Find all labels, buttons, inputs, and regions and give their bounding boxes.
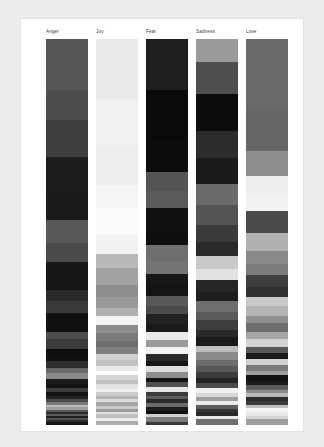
color-band: [96, 325, 138, 332]
color-band: [196, 205, 238, 224]
column-label-love: Love: [246, 29, 288, 39]
color-band: [46, 90, 88, 120]
column-fear[interactable]: Fear: [146, 29, 188, 425]
color-band: [146, 306, 188, 315]
column-joy[interactable]: Joy: [96, 29, 138, 425]
color-band: [46, 192, 88, 220]
color-band: [196, 280, 238, 292]
color-band: [96, 333, 138, 341]
band-stack-anger: [46, 39, 88, 425]
color-band: [196, 292, 238, 302]
column-label-sadness: Sadness: [196, 29, 238, 39]
column-love[interactable]: Love: [246, 29, 288, 425]
color-band: [46, 262, 88, 281]
color-band: [96, 316, 138, 325]
color-band: [46, 290, 88, 301]
color-band: [96, 99, 138, 146]
color-band: [96, 285, 138, 297]
color-band: [96, 297, 138, 307]
color-band: [146, 284, 188, 296]
color-band: [96, 146, 138, 185]
color-band: [246, 316, 288, 324]
column-anger[interactable]: Anger: [46, 29, 88, 425]
color-band: [246, 39, 288, 107]
color-band: [146, 39, 188, 90]
column-sadness[interactable]: Sadness: [196, 29, 238, 425]
color-band: [96, 421, 138, 425]
color-band: [196, 225, 238, 242]
color-band: [46, 301, 88, 313]
color-band: [196, 131, 238, 159]
color-band: [196, 184, 238, 205]
color-band: [146, 90, 188, 139]
color-band: [196, 352, 238, 359]
color-band: [246, 297, 288, 306]
color-band: [96, 185, 138, 208]
color-band: [246, 347, 288, 354]
color-band: [246, 176, 288, 196]
color-band: [146, 191, 188, 208]
color-band: [46, 281, 88, 290]
color-band: [96, 39, 138, 99]
color-band: [146, 208, 188, 229]
band-stack-joy: [96, 39, 138, 425]
color-band: [146, 332, 188, 341]
color-band: [196, 312, 238, 321]
color-band: [46, 332, 88, 339]
color-band: [96, 208, 138, 235]
color-band: [196, 94, 238, 130]
color-band: [46, 243, 88, 263]
color-band: [246, 323, 288, 332]
color-band: [196, 320, 238, 330]
color-band: [246, 107, 288, 151]
column-label-joy: Joy: [96, 29, 138, 39]
color-band: [46, 322, 88, 332]
color-band: [196, 242, 238, 257]
color-band: [246, 151, 288, 175]
color-band: [146, 245, 188, 261]
color-band: [246, 287, 288, 297]
color-band: [46, 157, 88, 192]
color-band: [246, 339, 288, 347]
column-label-fear: Fear: [146, 29, 188, 39]
color-band: [146, 230, 188, 245]
color-band: [196, 256, 238, 269]
color-band: [146, 422, 188, 425]
color-band: [46, 422, 88, 425]
color-band: [96, 254, 138, 269]
color-band: [196, 62, 238, 94]
color-band: [246, 211, 288, 233]
color-band: [246, 233, 288, 251]
color-band: [46, 120, 88, 157]
color-band: [246, 419, 288, 425]
color-band: [246, 275, 288, 287]
color-band: [96, 347, 138, 354]
color-band: [196, 158, 238, 184]
color-band: [46, 220, 88, 242]
color-band: [246, 306, 288, 316]
color-band: [146, 347, 188, 355]
emotion-columns-container: Anger Joy Fear Sadness Love: [46, 29, 288, 425]
color-band: [196, 301, 238, 312]
color-band: [146, 314, 188, 324]
color-band: [146, 172, 188, 191]
band-stack-love: [246, 39, 288, 425]
color-band: [196, 269, 238, 280]
color-band: [196, 330, 238, 337]
color-band: [146, 324, 188, 332]
color-band: [246, 359, 288, 366]
color-band: [96, 308, 138, 316]
color-band: [46, 361, 88, 368]
color-band: [246, 196, 288, 211]
color-band: [196, 419, 238, 424]
column-label-anger: Anger: [46, 29, 88, 39]
chart-card: Anger Joy Fear Sadness Love: [20, 18, 304, 432]
color-band: [246, 264, 288, 275]
band-stack-sadness: [196, 39, 238, 425]
color-band: [146, 296, 188, 306]
band-stack-fear: [146, 39, 188, 425]
color-band: [96, 235, 138, 254]
color-band: [96, 268, 138, 285]
color-band: [46, 313, 88, 321]
color-band: [246, 332, 288, 339]
